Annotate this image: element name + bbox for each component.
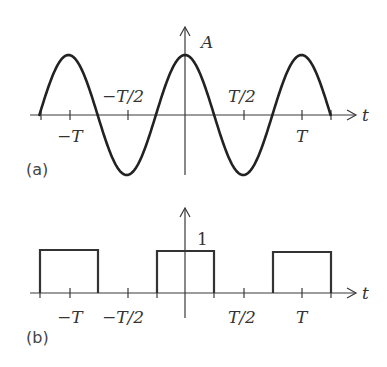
t-axis-label-b: t — [362, 283, 369, 303]
tick-label-half-T-a: T/2 — [228, 86, 256, 106]
pulse-right — [273, 252, 331, 293]
tick-label-neg-T-b: −T — [57, 307, 84, 327]
panel-a: A t −T −T/2 T/2 T (a) — [26, 27, 369, 179]
t-axis-label-a: t — [362, 105, 369, 125]
amplitude-label: A — [199, 32, 213, 52]
pulse-left — [40, 250, 98, 293]
tick-label-T-a: T — [296, 126, 309, 146]
pulse-height-label: 1 — [197, 229, 208, 249]
tick-label-neg-half-T-b: −T/2 — [102, 307, 144, 327]
panel-label-a: (a) — [26, 160, 48, 179]
tick-label-half-T-b: T/2 — [228, 307, 256, 327]
panel-label-b: (b) — [26, 328, 49, 347]
tick-label-neg-half-T-a: −T/2 — [102, 86, 144, 106]
tick-label-T-b: T — [296, 307, 309, 327]
signal-diagram: A t −T −T/2 T/2 T (a) 1 t −T −T/2 T/2 T … — [0, 0, 387, 367]
panel-b: 1 t −T −T/2 T/2 T (b) — [26, 208, 369, 347]
tick-label-neg-T-a: −T — [57, 126, 84, 146]
